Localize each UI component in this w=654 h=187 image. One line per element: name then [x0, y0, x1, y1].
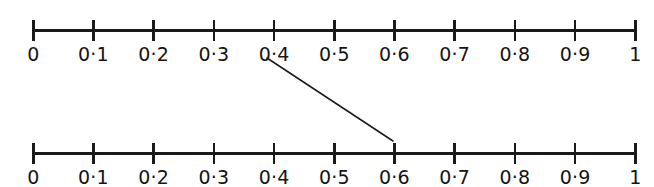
connector-stroke	[267, 58, 393, 141]
tick-label: 0·5	[319, 166, 350, 187]
tick-mark	[393, 143, 396, 164]
tick-label: 0·4	[259, 43, 290, 65]
tick-label: 0·1	[78, 166, 109, 187]
tick-mark	[634, 20, 637, 41]
tick-label: 0·3	[198, 166, 229, 187]
tick-mark	[273, 20, 276, 41]
number-line-diagram: 00·10·20·30·40·50·60·70·80·91 00·10·20·3…	[0, 0, 654, 187]
tick-label: 0·6	[379, 43, 410, 65]
tick-mark	[453, 143, 456, 164]
tick-label: 0·1	[78, 43, 109, 65]
tick-mark	[273, 143, 276, 164]
tick-mark	[92, 143, 95, 164]
tick-mark	[393, 20, 396, 41]
tick-mark	[333, 143, 336, 164]
tick-label: 0·6	[379, 166, 410, 187]
tick-label: 0·2	[138, 166, 169, 187]
tick-mark	[574, 20, 577, 41]
tick-mark	[333, 20, 336, 41]
tick-label: 0	[27, 43, 39, 65]
upper-number-line: 00·10·20·30·40·50·60·70·80·91	[0, 10, 654, 70]
lower-number-line: 00·10·20·30·40·50·60·70·80·91	[0, 133, 654, 187]
tick-mark	[213, 143, 216, 164]
tick-mark	[634, 143, 637, 164]
tick-label: 0	[27, 166, 39, 187]
tick-mark	[152, 20, 155, 41]
tick-label: 0·7	[439, 166, 470, 187]
tick-mark	[92, 20, 95, 41]
tick-label: 0·4	[259, 166, 290, 187]
tick-mark	[514, 143, 517, 164]
tick-label: 0·7	[439, 43, 470, 65]
tick-label: 1	[629, 166, 641, 187]
tick-label: 0·8	[499, 166, 530, 187]
tick-mark	[514, 20, 517, 41]
tick-label: 0·9	[560, 166, 591, 187]
tick-mark	[574, 143, 577, 164]
tick-mark	[213, 20, 216, 41]
tick-mark	[32, 143, 35, 164]
tick-label: 0·2	[138, 43, 169, 65]
tick-label: 0·9	[560, 43, 591, 65]
tick-label: 0·8	[499, 43, 530, 65]
tick-mark	[152, 143, 155, 164]
tick-mark	[32, 20, 35, 41]
tick-mark	[453, 20, 456, 41]
tick-label: 1	[629, 43, 641, 65]
tick-label: 0·3	[198, 43, 229, 65]
tick-label: 0·5	[319, 43, 350, 65]
